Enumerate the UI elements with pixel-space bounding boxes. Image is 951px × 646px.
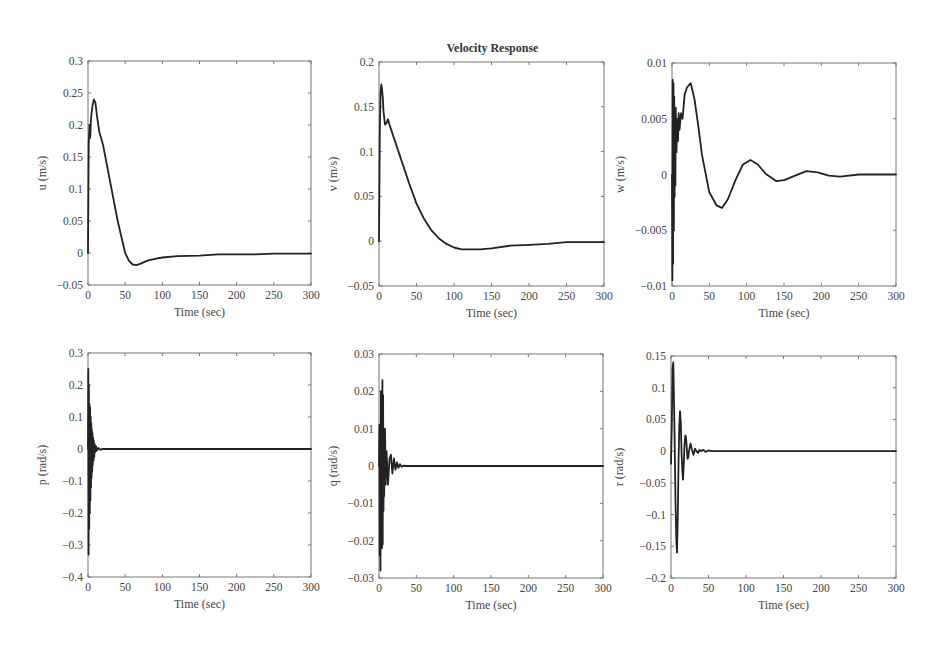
y-tick-label: 0.2	[360, 56, 375, 68]
y-tick-label: −0.02	[347, 535, 374, 547]
x-tick-label: 0	[668, 582, 674, 594]
y-tick-label: −0.4	[62, 571, 83, 583]
x-tick-label: 50	[411, 582, 423, 594]
x-tick-label: 250	[557, 582, 575, 594]
x-axis-label: Time (sec)	[758, 598, 809, 612]
x-tick-label: 50	[119, 289, 131, 301]
x-tick-label: 200	[520, 582, 538, 594]
x-tick-label: 250	[265, 581, 283, 593]
x-tick-label: 50	[411, 290, 423, 302]
y-tick-label: 0	[77, 443, 83, 455]
subplot-r: 050100150200250300−0.2−0.15−0.1−0.0500.0…	[612, 350, 905, 612]
x-tick-label: 50	[704, 290, 716, 302]
y-axis-label: v (m/s)	[326, 157, 340, 191]
x-tick-label: 100	[738, 290, 756, 302]
y-tick-label: 0.01	[354, 423, 374, 435]
x-tick-label: 300	[887, 290, 905, 302]
y-tick-label: 0	[368, 460, 374, 472]
y-tick-label: −0.05	[347, 280, 374, 292]
x-axis-label: Time (sec)	[466, 306, 517, 320]
x-axis-label: Time (sec)	[174, 597, 225, 611]
x-tick-label: 250	[558, 290, 576, 302]
x-tick-label: 250	[850, 582, 868, 594]
y-tick-label: −0.1	[62, 475, 83, 487]
y-tick-label: 0.1	[69, 183, 84, 195]
subplots-canvas: 050100150200250300−0.0500.050.10.150.20.…	[0, 0, 951, 646]
x-tick-label: 0	[669, 290, 675, 302]
y-tick-label: −0.2	[62, 507, 83, 519]
x-tick-label: 300	[887, 582, 905, 594]
y-tick-label: 0.05	[63, 215, 83, 227]
y-tick-label: 0.3	[69, 347, 84, 359]
axes-frame	[671, 356, 896, 578]
y-axis-label: q (rad/s)	[326, 446, 340, 486]
y-tick-label: 0.02	[354, 385, 374, 397]
y-axis-label: u (m/s)	[35, 156, 49, 190]
y-tick-label: 0	[660, 445, 666, 457]
x-tick-label: 150	[191, 581, 209, 593]
x-tick-label: 200	[520, 290, 538, 302]
x-tick-label: 100	[445, 290, 463, 302]
series-line-w	[672, 80, 896, 281]
series-line-q	[379, 380, 603, 570]
x-axis-label: Time (sec)	[465, 598, 516, 612]
x-tick-label: 150	[191, 289, 209, 301]
x-axis-label: Time (sec)	[758, 306, 809, 320]
y-tick-label: 0	[661, 169, 667, 181]
y-tick-label: −0.01	[640, 280, 667, 292]
x-tick-label: 50	[119, 581, 131, 593]
x-tick-label: 200	[228, 581, 246, 593]
y-tick-label: 0.3	[69, 55, 84, 67]
y-tick-label: 0.2	[69, 119, 84, 131]
y-tick-label: −0.3	[62, 539, 83, 551]
series-line-v	[379, 84, 604, 249]
y-tick-label: 0.03	[354, 348, 374, 360]
x-tick-label: 0	[376, 290, 382, 302]
x-tick-label: 250	[850, 290, 868, 302]
series-line-p	[88, 369, 311, 555]
y-tick-label: 0.1	[652, 382, 667, 394]
subplot-p: 050100150200250300−0.4−0.3−0.2−0.100.10.…	[35, 347, 320, 611]
figure-title: Velocity Response	[380, 41, 605, 56]
y-tick-label: −0.05	[56, 279, 83, 291]
x-tick-label: 150	[775, 582, 793, 594]
subplot-w: 050100150200250300−0.01−0.00500.0050.01T…	[613, 57, 905, 320]
y-axis-label: r (rad/s)	[612, 448, 626, 486]
y-tick-label: −0.005	[635, 224, 668, 236]
x-tick-label: 150	[483, 290, 501, 302]
y-tick-label: −0.1	[645, 509, 666, 521]
subplot-v: 050100150200250300−0.0500.050.10.150.2Ti…	[326, 56, 613, 320]
x-tick-label: 300	[302, 289, 320, 301]
y-tick-label: −0.15	[639, 540, 666, 552]
x-tick-label: 50	[703, 582, 715, 594]
y-tick-label: 0.01	[647, 57, 667, 69]
x-tick-label: 150	[482, 582, 500, 594]
y-tick-label: 0	[368, 235, 374, 247]
x-axis-label: Time (sec)	[174, 305, 225, 319]
series-line-r	[671, 362, 896, 552]
x-tick-label: 200	[813, 290, 831, 302]
axes-frame	[88, 61, 311, 285]
x-tick-label: 300	[595, 290, 613, 302]
x-tick-label: 0	[85, 289, 91, 301]
y-axis-label: w (m/s)	[613, 156, 627, 193]
x-tick-label: 0	[376, 582, 382, 594]
y-tick-label: 0.1	[360, 146, 375, 158]
y-tick-label: 0.1	[69, 411, 84, 423]
y-tick-label: 0.005	[641, 113, 667, 125]
axes-frame	[88, 353, 311, 577]
x-tick-label: 0	[85, 581, 91, 593]
y-tick-label: 0.05	[646, 413, 666, 425]
y-tick-label: −0.2	[645, 572, 666, 584]
x-tick-label: 200	[812, 582, 830, 594]
y-tick-label: −0.01	[347, 497, 374, 509]
y-axis-label: p (rad/s)	[35, 445, 49, 485]
x-tick-label: 300	[302, 581, 320, 593]
y-tick-label: −0.03	[347, 572, 374, 584]
axes-frame	[379, 62, 604, 286]
x-tick-label: 100	[154, 289, 172, 301]
x-tick-label: 200	[228, 289, 246, 301]
series-line-u	[88, 99, 311, 265]
x-tick-label: 100	[445, 582, 463, 594]
x-tick-label: 150	[775, 290, 793, 302]
